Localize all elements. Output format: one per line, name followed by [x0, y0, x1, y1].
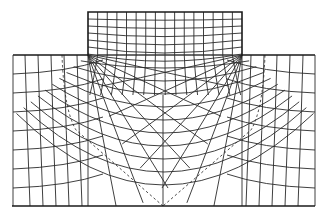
side-horizontal-line — [227, 155, 315, 169]
block-vertical-line — [154, 12, 155, 95]
flow-net-diagram — [0, 0, 327, 221]
grid-lines — [13, 12, 315, 206]
radial-line — [88, 55, 190, 168]
arc-line — [38, 96, 292, 146]
side-vertical-line — [285, 55, 290, 206]
block-vertical-line — [133, 12, 136, 95]
upper-boundary — [13, 12, 315, 55]
boundary-lines — [12, 12, 315, 206]
radial-line — [214, 55, 242, 206]
block-vertical-line — [194, 12, 198, 95]
side-vertical-line — [38, 55, 43, 206]
side-horizontal-line — [13, 174, 103, 188]
block-vertical-line — [175, 12, 176, 95]
side-vertical-line — [246, 55, 251, 206]
dashed-line-left — [62, 55, 163, 206]
side-horizontal-line — [227, 174, 315, 188]
radial-line — [88, 55, 116, 206]
side-vertical-line — [272, 55, 277, 206]
radial-line — [101, 55, 242, 86]
block-vertical-line — [184, 12, 187, 95]
